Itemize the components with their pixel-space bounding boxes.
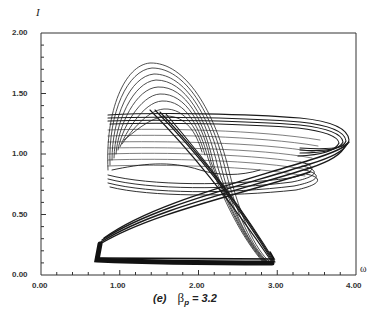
- caption-panel-label: (e): [153, 292, 166, 304]
- x-tick-label: 0.00: [32, 281, 48, 290]
- caption-beta-subscript: p: [184, 298, 189, 307]
- x-tick-label: 4.00: [346, 281, 362, 290]
- x-tick-label: 1.00: [110, 281, 126, 290]
- x-axis-label: ω: [360, 263, 367, 274]
- y-axis-ticks: [41, 45, 46, 263]
- x-axis-ticks: [57, 270, 341, 275]
- x-tick-label: 3.00: [268, 281, 284, 290]
- y-tick-label: 1.50: [12, 89, 28, 98]
- figure-caption: (e) βp = 3.2: [153, 290, 217, 307]
- y-axis-label: I: [36, 6, 40, 18]
- y-tick-label: 1.00: [12, 149, 28, 158]
- y-tick-label: 2.00: [12, 28, 28, 37]
- x-tick-label: 2.00: [189, 281, 205, 290]
- y-tick-label: 0.50: [12, 210, 28, 219]
- y-tick-label: 0.00: [12, 270, 28, 279]
- caption-param-value: = 3.2: [192, 292, 217, 304]
- attractor-curves: [97, 63, 349, 263]
